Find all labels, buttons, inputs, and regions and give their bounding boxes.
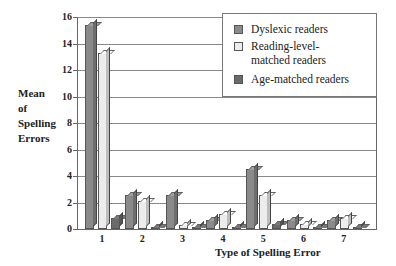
y-tick-mark bbox=[73, 44, 78, 45]
y-tick-label: 14 bbox=[54, 39, 72, 49]
y-tick-label: 6 bbox=[54, 145, 72, 155]
legend-swatch-icon bbox=[234, 75, 243, 84]
bar bbox=[125, 195, 134, 229]
legend-label: Reading-level- bbox=[251, 40, 319, 53]
bar bbox=[327, 220, 336, 229]
bar bbox=[166, 195, 175, 229]
bar bbox=[246, 169, 255, 229]
gridline bbox=[78, 203, 376, 204]
legend-label: Dyslexic readers bbox=[251, 23, 328, 36]
y-tick-label: 10 bbox=[54, 92, 72, 102]
x-tick-label: 5 bbox=[253, 233, 273, 244]
y-tick-mark bbox=[73, 17, 78, 18]
legend-swatch-icon bbox=[234, 42, 243, 51]
x-tick-label: 7 bbox=[334, 233, 354, 244]
y-tick-label: 12 bbox=[54, 65, 72, 75]
bar bbox=[138, 201, 147, 229]
x-axis-label: Type of Spelling Error bbox=[215, 246, 321, 258]
y-tick-mark bbox=[73, 203, 78, 204]
y-tick-label: 4 bbox=[54, 171, 72, 181]
y-tick-mark bbox=[73, 150, 78, 151]
bar bbox=[313, 227, 322, 229]
x-tick-label: 6 bbox=[294, 233, 314, 244]
x-tick-label: 4 bbox=[213, 233, 233, 244]
y-tick-label: 8 bbox=[54, 118, 72, 128]
y-tick-mark bbox=[73, 123, 78, 124]
y-label-line: Mean bbox=[18, 86, 56, 101]
y-tick-label: 2 bbox=[54, 198, 72, 208]
gridline bbox=[78, 123, 376, 124]
bar bbox=[111, 218, 120, 229]
y-axis-label: Mean of Spelling Errors bbox=[18, 86, 56, 146]
bar bbox=[206, 220, 215, 229]
y-tick-mark bbox=[73, 229, 78, 230]
bar bbox=[179, 225, 188, 229]
y-tick-mark bbox=[73, 176, 78, 177]
bar bbox=[98, 53, 107, 229]
y-tick-mark bbox=[73, 70, 78, 71]
legend-swatch-icon bbox=[234, 25, 243, 34]
y-label-line: Spelling bbox=[18, 116, 56, 131]
bar bbox=[287, 220, 296, 229]
legend-label: matched readers bbox=[251, 54, 326, 67]
x-tick-label: 2 bbox=[132, 233, 152, 244]
bar bbox=[340, 218, 349, 229]
bar bbox=[151, 227, 160, 229]
gridline bbox=[78, 150, 376, 151]
bar bbox=[85, 25, 94, 229]
legend: Dyslexic readers Reading-level- matched … bbox=[222, 13, 377, 97]
bar bbox=[259, 195, 268, 229]
y-tick-label: 16 bbox=[54, 12, 72, 22]
y-label-line: of bbox=[18, 101, 56, 116]
bar bbox=[353, 227, 362, 229]
y-tick-label: 0 bbox=[54, 224, 72, 234]
bar bbox=[272, 224, 281, 229]
bar bbox=[192, 227, 201, 229]
bar bbox=[300, 224, 309, 229]
x-tick-label: 1 bbox=[92, 233, 112, 244]
gridline bbox=[78, 176, 376, 177]
x-tick-label: 3 bbox=[173, 233, 193, 244]
legend-label: Age-matched readers bbox=[251, 73, 349, 86]
bar bbox=[219, 214, 228, 229]
bar bbox=[232, 227, 241, 229]
y-tick-mark bbox=[73, 97, 78, 98]
y-label-line: Errors bbox=[18, 131, 56, 146]
